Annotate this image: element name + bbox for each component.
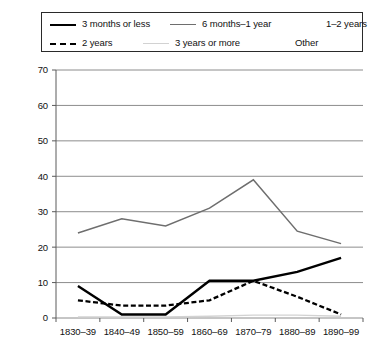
series-line-3 bbox=[78, 281, 341, 315]
x-tick-label: 1860–69 bbox=[191, 326, 227, 337]
legend-item-label: 2 years bbox=[82, 38, 112, 48]
legend-swatch-solid-black-icon bbox=[50, 18, 76, 29]
legend-row-1: 3 months or less6 months–1 year1–2 years bbox=[42, 14, 362, 33]
legend-item-0[interactable]: 3 months or less bbox=[50, 14, 150, 33]
legend-item-4[interactable]: 3 years or more bbox=[143, 33, 240, 52]
y-tick-label: 60 bbox=[38, 100, 48, 111]
y-tick-label: 50 bbox=[38, 135, 48, 146]
chart-legend: 3 months or less6 months–1 year1–2 years… bbox=[41, 12, 363, 52]
y-tick-label: 40 bbox=[38, 171, 48, 182]
legend-swatch-none-icon bbox=[294, 18, 320, 29]
legend-item-1[interactable]: 6 months–1 year bbox=[170, 14, 271, 33]
legend-item-label: Other bbox=[295, 38, 318, 48]
legend-swatch-solid-lightgray-icon bbox=[143, 37, 169, 48]
line-chart: 010203040506070 1830–391840–491850–59186… bbox=[0, 56, 374, 350]
series-lines bbox=[78, 180, 341, 317]
x-tick-label: 1850–59 bbox=[147, 326, 183, 337]
legend-item-3[interactable]: 2 years bbox=[50, 33, 112, 52]
legend-row-2: 2 years3 years or moreOther bbox=[42, 33, 362, 52]
axes bbox=[52, 70, 363, 322]
legend-swatch-none-icon bbox=[263, 37, 289, 48]
x-tick-label: 1880–89 bbox=[279, 326, 315, 337]
legend-item-2[interactable]: 1–2 years bbox=[294, 14, 367, 33]
y-tick-label: 30 bbox=[38, 206, 48, 217]
chart-canvas: 010203040506070 1830–391840–491850–59186… bbox=[0, 56, 374, 350]
x-tick-label: 1870–79 bbox=[235, 326, 271, 337]
legend-item-label: 6 months–1 year bbox=[202, 19, 271, 29]
y-tick-label: 20 bbox=[38, 242, 48, 253]
legend-swatch-solid-gray-icon bbox=[170, 18, 196, 29]
legend-item-label: 1–2 years bbox=[326, 19, 367, 29]
x-axis-ticks: 1830–391840–491850–591860–691870–791880–… bbox=[60, 326, 359, 337]
y-tick-label: 0 bbox=[43, 312, 48, 323]
x-tick-label: 1890–99 bbox=[323, 326, 359, 337]
series-line-4 bbox=[78, 315, 341, 317]
legend-item-label: 3 months or less bbox=[82, 19, 150, 29]
legend-item-5[interactable]: Other bbox=[263, 33, 318, 52]
y-tick-label: 70 bbox=[38, 64, 48, 75]
y-tick-label: 10 bbox=[38, 277, 48, 288]
legend-item-label: 3 years or more bbox=[175, 38, 240, 48]
legend-swatch-dashed-black-icon bbox=[50, 37, 76, 48]
x-tick-label: 1840–49 bbox=[104, 326, 140, 337]
x-tick-label: 1830–39 bbox=[60, 326, 96, 337]
y-axis-ticks: 010203040506070 bbox=[38, 64, 48, 323]
